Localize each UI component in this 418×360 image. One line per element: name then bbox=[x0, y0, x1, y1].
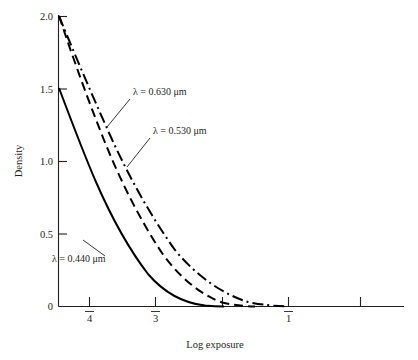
x-tick-label-minus4: 4 bbox=[87, 313, 93, 324]
y-tick-label-2.0: 2.0 bbox=[40, 11, 53, 22]
leader-line-630 bbox=[107, 99, 130, 127]
x-tick-label-minus3: 3 bbox=[153, 313, 158, 324]
y-tick-label-1.0: 1.0 bbox=[40, 156, 53, 167]
y-axis-title: Density bbox=[13, 144, 24, 177]
y-tick-label-1.5: 1.5 bbox=[40, 84, 53, 95]
y-tick-label-0: 0 bbox=[48, 301, 53, 312]
figure-container: 2.0 1.5 1.0 0.5 0 4 3 1 λ = 0.630 μm λ =… bbox=[0, 0, 418, 360]
x-tick-label-minus1: 1 bbox=[286, 313, 291, 324]
x-axis-title: Log exposure bbox=[186, 339, 244, 350]
series-label-lambda-440: λ = 0.440 μm bbox=[52, 253, 106, 264]
series-label-lambda-630: λ = 0.630 μm bbox=[133, 86, 187, 97]
y-tick-label-0.5: 0.5 bbox=[40, 229, 53, 240]
leader-line-530 bbox=[127, 138, 150, 167]
series-label-lambda-530: λ = 0.530 μm bbox=[153, 125, 207, 136]
density-vs-log-exposure-chart: 2.0 1.5 1.0 0.5 0 4 3 1 λ = 0.630 μm λ =… bbox=[0, 0, 418, 360]
